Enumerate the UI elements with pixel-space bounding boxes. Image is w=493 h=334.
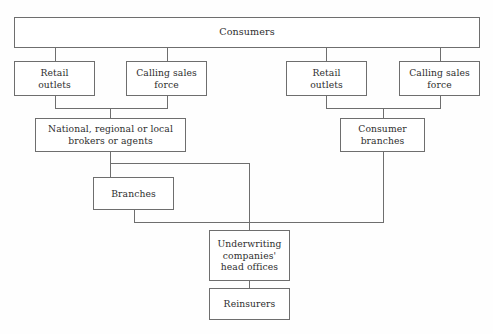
node-calling-sales-force-right: Calling sales force bbox=[399, 61, 480, 96]
node-retail-outlets-right: Retail outlets bbox=[286, 61, 367, 96]
connector-layer bbox=[0, 0, 493, 334]
connector-left-merge-bus bbox=[55, 96, 167, 108]
node-label-brokers-or-agents: National, regional or local brokers or a… bbox=[48, 123, 173, 147]
node-consumers: Consumers bbox=[14, 17, 480, 48]
node-brokers-or-agents: National, regional or local brokers or a… bbox=[35, 118, 186, 152]
node-label-underwriting-head-offices: Underwriting companies' head offices bbox=[217, 238, 281, 273]
diagram-canvas: ConsumersRetail outletsCalling sales for… bbox=[0, 0, 493, 334]
node-underwriting-head-offices: Underwriting companies' head offices bbox=[209, 230, 290, 281]
node-label-consumers: Consumers bbox=[219, 26, 275, 38]
node-branches: Branches bbox=[93, 177, 174, 210]
node-retail-outlets-left: Retail outlets bbox=[14, 61, 95, 96]
node-label-branches: Branches bbox=[111, 188, 156, 200]
node-label-reinsurers: Reinsurers bbox=[224, 298, 276, 310]
node-calling-sales-force-left: Calling sales force bbox=[126, 61, 207, 96]
node-consumer-branches: Consumer branches bbox=[340, 118, 425, 152]
connector-branches-drop-to-bus bbox=[134, 210, 383, 222]
node-label-calling-sales-force-left: Calling sales force bbox=[136, 67, 197, 91]
connector-right-merge-bus bbox=[326, 96, 440, 108]
node-label-retail-outlets-left: Retail outlets bbox=[38, 67, 71, 91]
node-label-calling-sales-force-right: Calling sales force bbox=[409, 67, 470, 91]
node-label-consumer-branches: Consumer branches bbox=[358, 123, 406, 147]
node-reinsurers: Reinsurers bbox=[209, 288, 290, 320]
node-label-retail-outlets-right: Retail outlets bbox=[310, 67, 343, 91]
